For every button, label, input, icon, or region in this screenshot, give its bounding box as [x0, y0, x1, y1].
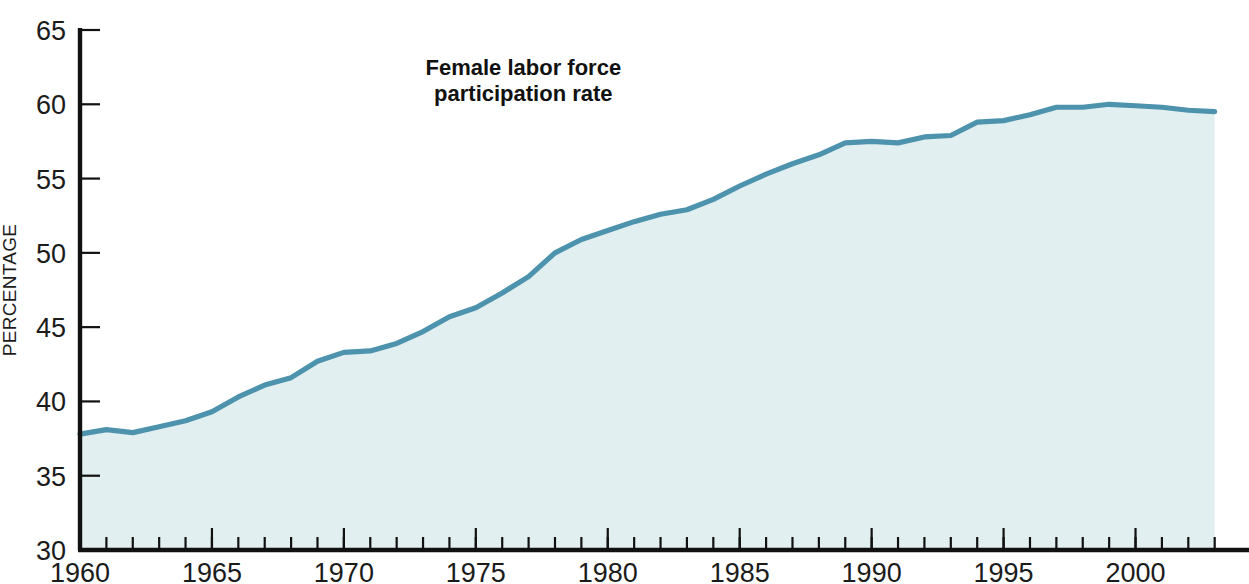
x-tick-label: 1975 — [446, 558, 506, 584]
x-tick-label: 1980 — [578, 558, 638, 584]
series-callout-label: Female labor force participation rate — [426, 55, 622, 106]
x-tick-label: 1990 — [842, 558, 902, 584]
chart-container: 3035404550556065 19601965197019751980198… — [0, 0, 1249, 584]
x-tick-label: 1965 — [182, 558, 242, 584]
x-tick-label: 2000 — [1105, 558, 1165, 584]
y-axis-title: PERCENTAGE — [0, 224, 20, 357]
y-tick-label: 55 — [36, 165, 66, 195]
plot-area-fill — [80, 104, 1215, 550]
y-tick-label: 50 — [36, 239, 66, 269]
series-callout-line-2: participation rate — [434, 81, 612, 106]
line-area-chart: 3035404550556065 19601965197019751980198… — [0, 0, 1249, 584]
y-tick-label: 40 — [36, 387, 66, 417]
x-tick-label: 1985 — [710, 558, 770, 584]
y-tick-label: 60 — [36, 90, 66, 120]
x-tick-label: 1995 — [974, 558, 1034, 584]
y-tick-label: 45 — [36, 313, 66, 343]
x-tick-label: 1970 — [314, 558, 374, 584]
y-tick-label: 35 — [36, 462, 66, 492]
y-tick-label: 65 — [36, 16, 66, 46]
series-callout-line-1: Female labor force — [426, 55, 622, 80]
x-tick-label: 1960 — [50, 558, 110, 584]
